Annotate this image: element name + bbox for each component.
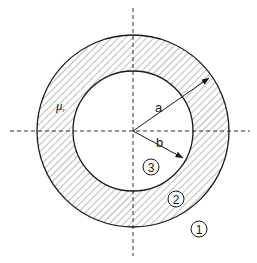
- svg-text:3: 3: [148, 161, 155, 175]
- radius-a-label: a: [155, 100, 163, 115]
- svg-text:2: 2: [173, 193, 180, 207]
- region-1-marker: 1: [191, 221, 207, 237]
- svg-text:1: 1: [196, 223, 203, 237]
- region-3-marker: 3: [143, 159, 159, 175]
- shield-cross-section-diagram: μr a b 3 2 1: [0, 0, 257, 263]
- region-2-marker: 2: [168, 191, 184, 207]
- radius-b-label: b: [156, 135, 163, 150]
